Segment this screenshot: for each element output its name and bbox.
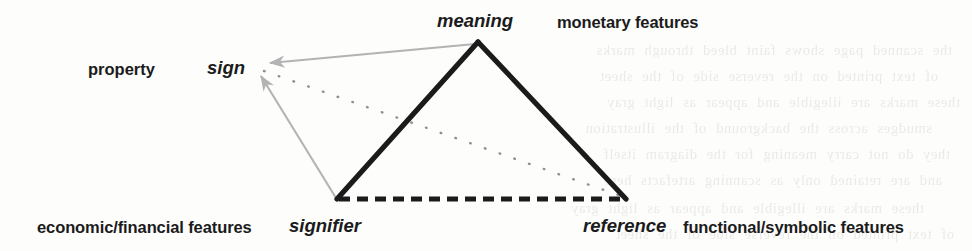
annotation-monetary-features: monetary features <box>557 14 698 31</box>
edge-meaning-to-reference <box>478 42 626 199</box>
edge-sign-to-reference-dotted <box>264 71 624 197</box>
node-label-sign: sign <box>207 59 245 78</box>
figure-canvas: the scanned page shows faint bleed throu… <box>0 0 972 251</box>
annotation-property: property <box>88 61 155 78</box>
annotation-economic-financial-features: economic/financial features <box>37 219 252 236</box>
node-label-signifier: signifier <box>289 217 361 236</box>
edge-meaning-to-sign-arrow <box>270 44 475 63</box>
node-label-meaning: meaning <box>437 12 513 31</box>
edge-signifier-to-sign-arrow <box>261 76 336 198</box>
semiotic-triangle-graphic <box>0 0 972 251</box>
node-label-reference: reference <box>583 217 666 236</box>
annotation-functional-symbolic-features: functional/symbolic features <box>683 219 904 236</box>
edge-meaning-to-signifier <box>337 42 478 199</box>
